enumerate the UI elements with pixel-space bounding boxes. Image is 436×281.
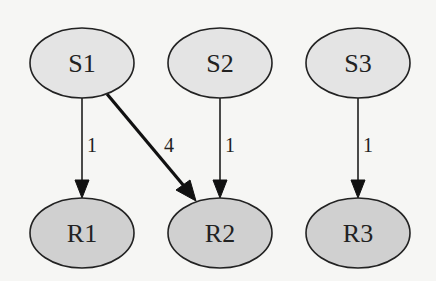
edge-s3-r3[interactable]: 1 [351, 98, 373, 198]
edge-label: 1 [363, 134, 373, 156]
edges: 1 4 1 1 [75, 94, 373, 201]
node-label: R3 [343, 219, 373, 248]
node-label: S3 [344, 49, 371, 78]
arrowhead-icon [176, 180, 196, 201]
edge-s1-r2[interactable]: 4 [107, 94, 196, 201]
node-label: S2 [206, 49, 233, 78]
node-r1[interactable]: R1 [30, 198, 134, 268]
node-r3[interactable]: R3 [306, 198, 410, 268]
graph-canvas: 1 4 1 1 S1 S2 S3 R1 [0, 0, 436, 281]
edge-s2-r2[interactable]: 1 [213, 98, 235, 198]
node-label: S1 [68, 49, 95, 78]
node-s2[interactable]: S2 [168, 28, 272, 98]
node-s3[interactable]: S3 [306, 28, 410, 98]
node-s1[interactable]: S1 [30, 28, 134, 98]
edge-label: 1 [87, 134, 97, 156]
arrowhead-icon [75, 180, 89, 198]
node-label: R1 [67, 219, 97, 248]
node-label: R2 [205, 219, 235, 248]
edge-label: 4 [164, 134, 174, 156]
edge-s1-r1[interactable]: 1 [75, 98, 97, 198]
arrowhead-icon [351, 180, 365, 198]
arrowhead-icon [213, 180, 227, 198]
node-r2[interactable]: R2 [168, 198, 272, 268]
edge-label: 1 [225, 134, 235, 156]
